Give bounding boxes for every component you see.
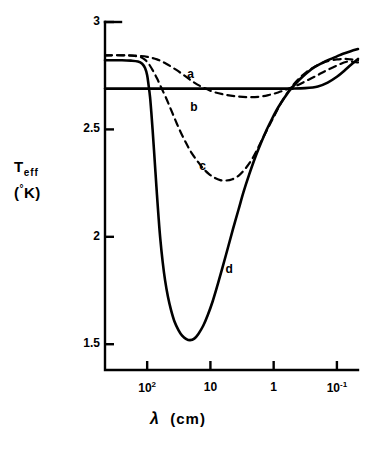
x-tick-base: 10 <box>138 381 151 395</box>
x-axis-tick-label: 10-1 <box>311 380 363 395</box>
y-axis-unit-kelvin: K <box>24 184 35 201</box>
y-axis-title-teff: Teff <box>14 155 94 181</box>
figure-container: Teff (°K) λ (cm) 32.521.510210110-1 abcd <box>0 0 372 449</box>
x-axis-title-unit-space <box>160 410 170 427</box>
y-axis-unit-paren-close: ) <box>35 184 41 201</box>
x-axis-title-unit: (cm) <box>170 410 206 427</box>
curve-b <box>105 55 358 97</box>
y-axis-unit: (°K) <box>14 181 94 204</box>
data-curves <box>105 49 358 340</box>
x-axis-tick-label: 102 <box>121 380 173 395</box>
y-axis-tick-label: 2 <box>58 229 100 243</box>
x-tick-exponent: -1 <box>340 380 347 389</box>
x-axis-tick-label: 10 <box>184 380 236 394</box>
curve-label-a: a <box>187 67 194 81</box>
y-axis-title: Teff (°K) <box>14 155 94 204</box>
curve-d <box>105 49 358 340</box>
y-axis-title-subscript: eff <box>24 167 39 178</box>
curve-label-c: c <box>199 159 206 173</box>
y-axis-tick-label: 3 <box>58 14 100 28</box>
x-axis-title-lambda: λ <box>150 410 160 427</box>
curve-label-b: b <box>190 100 197 114</box>
y-axis-tick-label: 2.5 <box>58 121 100 135</box>
y-axis-tick-label: 1.5 <box>58 336 100 350</box>
x-axis-title: λ (cm) <box>150 410 206 428</box>
y-axis-title-main: T <box>14 158 24 175</box>
x-tick-exponent: 2 <box>152 380 156 389</box>
x-tick-base: 10 <box>327 381 340 395</box>
x-axis-tick-label: 1 <box>248 380 300 394</box>
curve-label-d: d <box>225 262 232 276</box>
